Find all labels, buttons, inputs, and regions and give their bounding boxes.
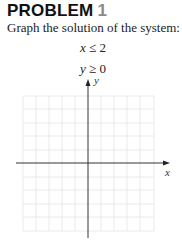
y-axis-label: y — [93, 74, 99, 86]
x-axis-label: x — [164, 166, 170, 178]
x-axis-arrow-icon — [163, 161, 170, 166]
y-axis-arrow-icon — [86, 79, 91, 86]
coordinate-grid[interactable]: x y — [0, 0, 182, 252]
